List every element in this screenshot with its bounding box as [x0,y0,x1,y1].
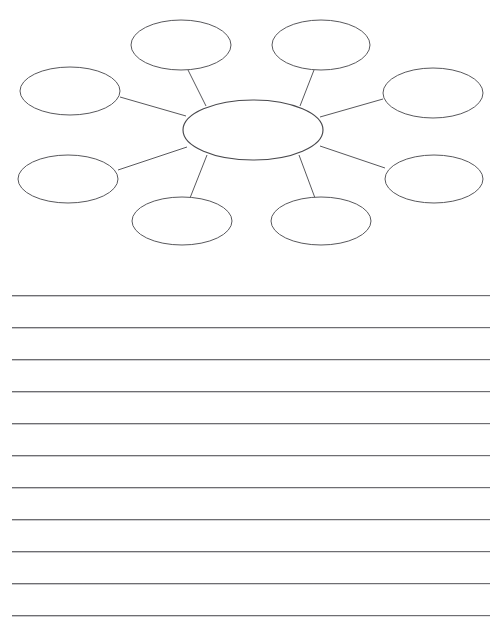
bubble-top-left[interactable] [131,20,231,70]
bubble-right-upper-shape[interactable] [383,68,483,118]
writing-line[interactable] [12,615,490,616]
writing-line[interactable] [12,295,490,296]
bubble-bottom-right-shape[interactable] [271,197,371,245]
writing-line[interactable] [12,327,490,328]
bubble-top-right-shape[interactable] [272,20,370,70]
cluster-diagram [0,0,503,275]
center-bubble[interactable] [183,100,323,160]
bubble-bottom-left-shape[interactable] [132,197,232,245]
cluster-diagram-canvas [0,0,503,275]
connector-left-upper [120,97,186,116]
bubble-top-left-shape[interactable] [131,20,231,70]
bubble-right-upper[interactable] [383,68,483,118]
bubble-right-lower-shape[interactable] [385,155,483,203]
center-bubble-shape[interactable] [183,100,323,160]
bubble-left-lower[interactable] [18,155,118,203]
bubble-bottom-left[interactable] [132,197,232,245]
bubble-left-upper-shape[interactable] [20,67,120,115]
writing-line[interactable] [12,551,490,552]
connector-bottom-right [299,155,315,198]
connector-bottom-left [190,155,207,198]
writing-lines-area [0,275,503,634]
bubble-top-right[interactable] [272,20,370,70]
bubble-bottom-right[interactable] [271,197,371,245]
writing-line[interactable] [12,423,490,424]
connector-top-right [300,70,314,106]
writing-line[interactable] [12,583,490,584]
bubble-left-upper[interactable] [20,67,120,115]
bubble-right-lower[interactable] [385,155,483,203]
worksheet-page: Blank Web / Cluster Graphic Organizer Wo… [0,0,503,634]
writing-line[interactable] [12,519,490,520]
writing-line[interactable] [12,487,490,488]
connector-right-upper [320,99,383,117]
connector-left-lower [118,147,187,170]
connector-right-lower [320,146,385,168]
writing-line[interactable] [12,359,490,360]
writing-line[interactable] [12,391,490,392]
writing-line[interactable] [12,455,490,456]
connector-top-left [188,70,206,106]
bubble-left-lower-shape[interactable] [18,155,118,203]
